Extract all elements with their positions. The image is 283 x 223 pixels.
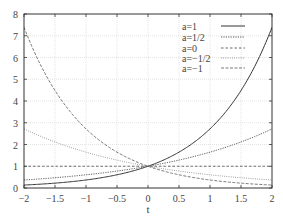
grid <box>24 14 272 188</box>
y-tick-label: 3 <box>13 118 18 129</box>
x-axis-label: t <box>146 203 149 215</box>
x-tick-label: −2 <box>19 193 30 204</box>
x-axis-ticks: −2−1.5−1−0.500.511.52 <box>19 14 275 204</box>
x-tick-label: 1.5 <box>235 193 248 204</box>
line-chart: 012345678 −2−1.5−1−0.500.511.52 t a=1a=1… <box>0 0 283 223</box>
x-tick-label: −1.5 <box>46 193 64 204</box>
y-tick-label: 6 <box>13 53 18 64</box>
legend: a=1a=1/2a=0a=−1/2a=−1 <box>182 21 245 74</box>
legend-label: a=1 <box>182 21 197 32</box>
y-tick-label: 7 <box>13 31 18 42</box>
y-tick-label: 8 <box>13 9 18 20</box>
x-tick-label: 0.5 <box>173 193 186 204</box>
legend-label: a=−1 <box>182 63 203 74</box>
x-tick-label: −1 <box>81 193 92 204</box>
x-tick-label: 2 <box>270 193 275 204</box>
y-tick-label: 4 <box>13 96 18 107</box>
y-tick-label: 5 <box>13 74 18 85</box>
legend-label: a=1/2 <box>182 32 205 43</box>
y-tick-label: 0 <box>13 183 18 194</box>
x-tick-label: 1 <box>208 193 213 204</box>
y-tick-label: 1 <box>13 161 18 172</box>
y-tick-label: 2 <box>13 140 18 151</box>
x-tick-label: −0.5 <box>108 193 126 204</box>
